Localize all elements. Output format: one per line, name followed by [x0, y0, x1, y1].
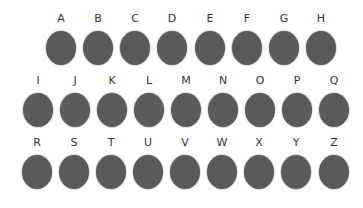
letter-label: Q [317, 74, 351, 87]
letter-label: K [95, 74, 129, 87]
letter-item-y[interactable]: Y [279, 136, 313, 194]
letter-item-p[interactable]: P [280, 74, 314, 132]
letter-label: V [168, 136, 202, 149]
letter-label: H [304, 12, 338, 25]
letter-item-f[interactable]: F [230, 12, 264, 70]
circle-button[interactable] [170, 155, 200, 189]
letter-item-t[interactable]: T [94, 136, 128, 194]
letter-item-i[interactable]: I [21, 74, 55, 132]
letter-item-k[interactable]: K [95, 74, 129, 132]
circle-button[interactable] [83, 31, 113, 65]
circle-button[interactable] [232, 31, 262, 65]
letter-item-r[interactable]: R [20, 136, 54, 194]
letter-item-m[interactable]: M [169, 74, 203, 132]
letter-item-n[interactable]: N [206, 74, 240, 132]
letter-label: F [230, 12, 264, 25]
letter-item-b[interactable]: B [81, 12, 115, 70]
letter-label: U [131, 136, 165, 149]
circle-button[interactable] [207, 155, 237, 189]
letter-item-h[interactable]: H [304, 12, 338, 70]
letter-item-l[interactable]: L [132, 74, 166, 132]
circle-button[interactable] [97, 93, 127, 127]
circle-button[interactable] [319, 155, 349, 189]
circle-button[interactable] [269, 31, 299, 65]
circle-button[interactable] [244, 155, 274, 189]
letter-label: I [21, 74, 55, 87]
letter-label: P [280, 74, 314, 87]
letter-item-a[interactable]: A [44, 12, 78, 70]
letter-item-x[interactable]: X [242, 136, 276, 194]
letter-label: A [44, 12, 78, 25]
circle-button[interactable] [120, 31, 150, 65]
circle-button[interactable] [96, 155, 126, 189]
letter-label: G [267, 12, 301, 25]
letter-item-e[interactable]: E [193, 12, 227, 70]
letter-label: M [169, 74, 203, 87]
letter-label: B [81, 12, 115, 25]
letter-label: D [155, 12, 189, 25]
letter-label: J [58, 74, 92, 87]
letter-item-s[interactable]: S [57, 136, 91, 194]
circle-button[interactable] [208, 93, 238, 127]
circle-button[interactable] [306, 31, 336, 65]
letter-item-o[interactable]: O [243, 74, 277, 132]
letter-item-w[interactable]: W [205, 136, 239, 194]
letter-label: L [132, 74, 166, 87]
letter-item-v[interactable]: V [168, 136, 202, 194]
letter-label: Z [317, 136, 351, 149]
letter-label: R [20, 136, 54, 149]
letter-label: Y [279, 136, 313, 149]
letter-item-z[interactable]: Z [317, 136, 351, 194]
circle-button[interactable] [133, 155, 163, 189]
circle-button[interactable] [46, 31, 76, 65]
letter-label: C [118, 12, 152, 25]
letter-dot-grid: ABCDEFGHIJKLMNOPQRSTUVWXYZ [0, 0, 363, 208]
circle-button[interactable] [23, 93, 53, 127]
letter-label: O [243, 74, 277, 87]
circle-button[interactable] [60, 93, 90, 127]
letter-item-u[interactable]: U [131, 136, 165, 194]
circle-button[interactable] [22, 155, 52, 189]
letter-item-c[interactable]: C [118, 12, 152, 70]
circle-button[interactable] [134, 93, 164, 127]
letter-item-g[interactable]: G [267, 12, 301, 70]
circle-button[interactable] [59, 155, 89, 189]
circle-button[interactable] [195, 31, 225, 65]
circle-button[interactable] [282, 93, 312, 127]
letter-label: X [242, 136, 276, 149]
letter-item-d[interactable]: D [155, 12, 189, 70]
letter-item-j[interactable]: J [58, 74, 92, 132]
letter-label: N [206, 74, 240, 87]
circle-button[interactable] [171, 93, 201, 127]
circle-button[interactable] [157, 31, 187, 65]
circle-button[interactable] [245, 93, 275, 127]
circle-button[interactable] [319, 93, 349, 127]
letter-label: S [57, 136, 91, 149]
letter-label: W [205, 136, 239, 149]
letter-label: T [94, 136, 128, 149]
circle-button[interactable] [281, 155, 311, 189]
letter-item-q[interactable]: Q [317, 74, 351, 132]
letter-label: E [193, 12, 227, 25]
